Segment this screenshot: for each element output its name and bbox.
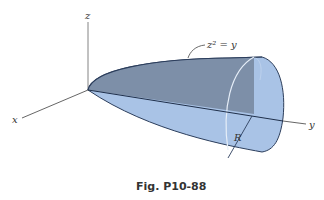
x-axis: [22, 90, 88, 118]
y-axis: [283, 121, 306, 124]
z-axis-label: z: [84, 10, 91, 21]
radius-label: R: [233, 132, 242, 143]
paraboloid-figure: z x y z² = y R Fig. P10-88: [0, 0, 324, 200]
y-axis-label: y: [308, 119, 315, 130]
equation-leader: [188, 45, 205, 58]
x-axis-label: x: [12, 114, 18, 125]
figure-caption: Fig. P10-88: [136, 180, 206, 193]
equation-label: z² = y: [206, 39, 237, 50]
